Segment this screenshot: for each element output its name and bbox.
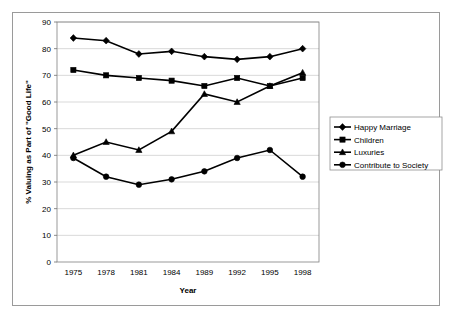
y-axis-tick-label: 10 bbox=[42, 231, 51, 240]
data-point bbox=[136, 75, 141, 80]
y-axis-title: % Valuing as Part of "Good Life" bbox=[24, 80, 33, 204]
y-axis-tick-label: 80 bbox=[42, 45, 51, 54]
data-point bbox=[136, 182, 142, 188]
data-point bbox=[267, 147, 273, 153]
data-point bbox=[169, 177, 175, 183]
legend-item-label: Children bbox=[354, 136, 384, 145]
x-axis-tick-label: 1975 bbox=[64, 268, 82, 277]
plot-background bbox=[57, 22, 319, 262]
legend-item-label: Contribute to Society bbox=[354, 161, 428, 170]
x-axis-title: Year bbox=[180, 286, 197, 295]
legend-item-label: Luxuries bbox=[354, 148, 384, 157]
y-axis-tick-labels: 0102030405060708090 bbox=[42, 18, 51, 267]
data-point bbox=[71, 67, 76, 72]
x-axis-tick-label: 1981 bbox=[130, 268, 148, 277]
y-axis-tick-label: 40 bbox=[42, 151, 51, 160]
line-chart: 0102030405060708090 19751978198119841989… bbox=[0, 0, 454, 322]
data-point bbox=[234, 155, 240, 161]
y-axis-ticks bbox=[54, 22, 57, 262]
x-axis-tick-label: 1998 bbox=[294, 268, 312, 277]
y-axis-tick-label: 0 bbox=[47, 258, 52, 267]
y-axis-tick-label: 20 bbox=[42, 205, 51, 214]
y-axis-tick-label: 70 bbox=[42, 71, 51, 80]
data-point bbox=[202, 83, 207, 88]
data-point bbox=[300, 174, 306, 180]
figure-container: 0102030405060708090 19751978198119841989… bbox=[0, 0, 454, 322]
data-point bbox=[104, 73, 109, 78]
data-point bbox=[235, 75, 240, 80]
data-point bbox=[71, 155, 77, 161]
y-axis-tick-label: 50 bbox=[42, 125, 51, 134]
data-point bbox=[300, 75, 305, 80]
y-axis-tick-label: 60 bbox=[42, 98, 51, 107]
chart-legend: Happy MarriageChildrenLuxuriesContribute… bbox=[330, 117, 442, 170]
x-axis-tick-label: 1978 bbox=[97, 268, 115, 277]
y-axis-tick-label: 30 bbox=[42, 178, 51, 187]
legend-marker-square-icon bbox=[340, 137, 345, 142]
data-point bbox=[103, 174, 109, 180]
x-axis-tick-label: 1992 bbox=[228, 268, 246, 277]
legend-item-label: Happy Marriage bbox=[354, 123, 411, 132]
x-axis-tick-label: 1984 bbox=[163, 268, 181, 277]
data-point bbox=[202, 169, 208, 175]
x-axis-tick-labels: 19751978198119841989199219951998 bbox=[64, 268, 312, 277]
x-axis-tick-label: 1989 bbox=[195, 268, 213, 277]
data-point bbox=[169, 78, 174, 83]
y-axis-tick-label: 90 bbox=[42, 18, 51, 27]
legend-marker-circle-icon bbox=[340, 162, 346, 168]
x-axis-tick-label: 1995 bbox=[261, 268, 279, 277]
